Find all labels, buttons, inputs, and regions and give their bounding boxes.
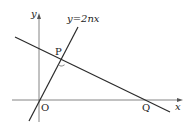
x-axis-label: x — [175, 102, 181, 112]
point-p-label: P — [55, 47, 62, 57]
y-axis-arrow-icon — [37, 13, 41, 19]
line-equation-label: y=2nx — [67, 14, 99, 24]
line-y-2nx — [29, 27, 78, 121]
x-axis — [12, 98, 183, 102]
origin-label: O — [41, 103, 49, 113]
right-angle-mark-icon — [59, 65, 65, 67]
y-axis-label: y — [31, 9, 37, 19]
point-q-label: Q — [142, 103, 150, 113]
line-pq — [15, 37, 170, 112]
